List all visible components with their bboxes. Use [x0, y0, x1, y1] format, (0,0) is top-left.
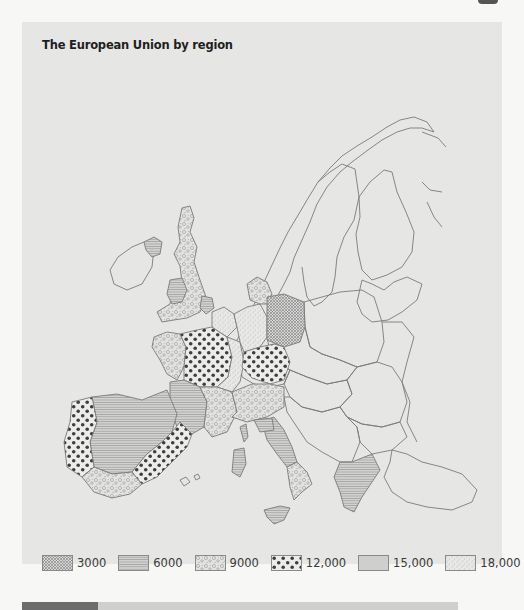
- europe-map: [22, 22, 502, 542]
- legend-label: 6000: [153, 556, 182, 570]
- swatch-stipple-circles: [195, 555, 226, 571]
- swatch-light-stipple: [445, 555, 476, 571]
- region-northern-italy: [232, 384, 284, 422]
- turkey-outline: [384, 450, 477, 510]
- legend-label: 12,000: [306, 556, 346, 570]
- region-southeast-france: [200, 387, 237, 437]
- legend-item-9000: 9000: [195, 555, 259, 571]
- legend-item-15000: 15,000: [358, 555, 433, 571]
- sweden-outline: [302, 164, 359, 306]
- legend-label: 18,000: [480, 556, 520, 570]
- region-southern-italy: [287, 462, 312, 500]
- region-eastern-germany: [267, 294, 305, 347]
- region-great-britain: [157, 206, 206, 322]
- region-greece: [334, 454, 380, 512]
- footer-tab: [22, 602, 98, 610]
- legend-label: 15,000: [393, 556, 433, 570]
- region-southern-germany: [242, 344, 290, 384]
- baltics-outline: [357, 277, 422, 322]
- legend-item-12000: 12,000: [271, 555, 346, 571]
- poland-outline: [304, 290, 384, 367]
- swatch-crosshatch-fine: [42, 555, 73, 571]
- romania-outline: [340, 362, 407, 427]
- legend-label: 3000: [77, 556, 106, 570]
- legend-item-6000: 6000: [118, 555, 182, 571]
- balkans-outline: [284, 397, 360, 462]
- region-east-anglia: [200, 296, 214, 314]
- eastern-border: [382, 322, 417, 442]
- bulgaria-outline: [347, 417, 407, 454]
- legend-item-18000: 18,000: [445, 555, 520, 571]
- legend-label: 9000: [230, 556, 259, 570]
- region-northern-ireland: [144, 237, 162, 257]
- swatch-fine-horizontal-lines: [358, 555, 389, 571]
- region-balearics: [180, 474, 200, 486]
- corner-mark: [478, 0, 498, 4]
- region-sicily: [264, 506, 290, 524]
- russia-kola-outline: [422, 132, 446, 227]
- map-panel: The European Union by region: [22, 22, 502, 564]
- region-northern-france: [180, 327, 232, 387]
- region-portugal: [64, 397, 97, 477]
- region-sardinia-corsica: [232, 424, 248, 477]
- legend-item-3000: 3000: [42, 555, 106, 571]
- finland-outline: [356, 170, 414, 280]
- region-western-france: [152, 332, 186, 380]
- map-legend: 3000 6000 9000 12,000 15,000 18,000: [42, 555, 524, 571]
- region-italy-north-band: [254, 418, 274, 432]
- swatch-horizontal-lines: [118, 555, 149, 571]
- swatch-large-dots: [271, 555, 302, 571]
